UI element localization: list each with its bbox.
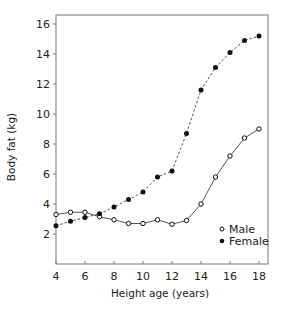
male-point <box>141 221 145 225</box>
legend-female-label: Female <box>229 235 269 248</box>
x-tick-label: 12 <box>165 270 179 283</box>
female-point <box>213 65 218 70</box>
female-point <box>155 175 160 180</box>
male-point <box>170 222 174 226</box>
female-point <box>141 190 146 195</box>
legend: Male Female <box>220 223 269 248</box>
x-tick-label: 4 <box>53 270 60 283</box>
y-tick-label: 8 <box>43 138 50 151</box>
male-point <box>199 202 203 206</box>
female-point <box>83 215 88 220</box>
male-point <box>184 218 188 222</box>
y-tick-label: 14 <box>36 48 50 61</box>
y-tick-label: 16 <box>36 18 50 31</box>
female-point <box>242 38 247 43</box>
male-point <box>112 218 116 222</box>
y-tick-label: 4 <box>43 198 50 211</box>
y-tick-label: 2 <box>43 228 50 241</box>
female-point <box>170 169 175 174</box>
male-point <box>228 154 232 158</box>
y-tick-label: 6 <box>43 168 50 181</box>
female-point <box>228 50 233 55</box>
male-point <box>54 212 58 216</box>
male-point <box>83 210 87 214</box>
female-point <box>257 34 262 39</box>
male-point <box>126 221 130 225</box>
legend-female-marker <box>220 239 225 244</box>
female-point <box>97 211 102 216</box>
y-tick-label: 10 <box>36 108 50 121</box>
female-point <box>112 205 117 210</box>
male-point <box>68 210 72 214</box>
x-tick-label: 14 <box>194 270 208 283</box>
male-point <box>257 127 261 131</box>
male-point <box>155 218 159 222</box>
male-point <box>242 136 246 140</box>
y-axis-ticks: 246810121416 <box>36 18 56 241</box>
legend-male-marker <box>220 227 224 231</box>
series-group <box>54 34 262 229</box>
female-point <box>54 223 59 228</box>
x-tick-label: 8 <box>111 270 118 283</box>
female-point <box>126 197 131 202</box>
x-tick-label: 16 <box>223 270 237 283</box>
x-tick-label: 10 <box>136 270 150 283</box>
female-line <box>56 36 259 226</box>
female-point <box>199 88 204 93</box>
x-axis-label: Height age (years) <box>111 287 209 299</box>
female-point <box>184 131 189 136</box>
x-tick-label: 6 <box>82 270 89 283</box>
y-tick-label: 12 <box>36 78 50 91</box>
x-tick-label: 18 <box>252 270 266 283</box>
y-axis-label: Body fat (kg) <box>5 113 17 181</box>
body-fat-chart: 4681012141618 246810121416 Height age (y… <box>0 0 282 313</box>
female-point <box>68 219 73 224</box>
male-point <box>213 175 217 179</box>
